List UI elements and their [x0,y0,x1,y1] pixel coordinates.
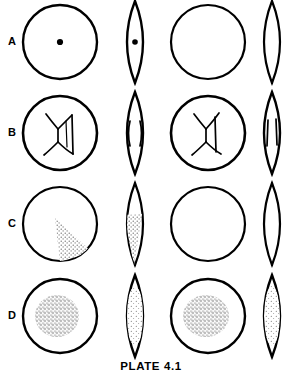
row-c-figures [23,183,280,266]
row-label-c: C [8,218,16,229]
row-b-lens-outline-2 [127,92,143,174]
row-b-circle-outline-3 [171,96,245,170]
row-label-d: D [8,310,16,321]
row-label-b: B [8,127,16,138]
row-a-lens-outline-4 [264,1,280,83]
row-a-center-dot-2 [132,39,138,45]
row-label-a: A [8,36,16,47]
plate-caption: PLATE 4.1 [0,360,302,372]
row-b-lens-outline-4 [264,92,280,174]
row-d-stipple-patch-1 [35,295,79,337]
row-d-figures [23,275,280,357]
row-a-figures [23,1,280,83]
row-a-circle-outline-3 [171,5,245,79]
row-b-circle-outline-1 [23,96,97,170]
specimen-diagram-grid [0,0,302,372]
plate-figure: A B C D [0,0,302,372]
row-c-circle-outline-3 [171,187,245,261]
row-b-figures [23,92,280,174]
row-a-center-dot-1 [57,39,63,45]
row-d-stipple-patch-3 [183,295,229,337]
row-c-lens-outline-4 [264,183,280,265]
row-d-stipple-patch-4 [264,286,280,346]
